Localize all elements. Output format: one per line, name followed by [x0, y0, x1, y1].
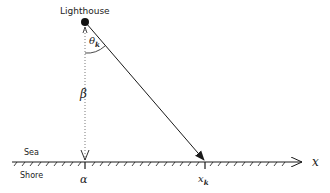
- lighthouse-diagram: Lighthouse θk β Sea Shore α xk x: [0, 0, 330, 193]
- diagram-svg: Lighthouse θk β Sea Shore α xk x: [0, 0, 330, 193]
- lighthouse-dot: [81, 18, 89, 26]
- xk-label: xk: [198, 173, 209, 187]
- shore-hatching: [14, 162, 285, 166]
- x-axis-label: x: [312, 155, 319, 169]
- beta-label: β: [79, 87, 87, 101]
- shore-label: Shore: [20, 171, 43, 180]
- sea-label: Sea: [24, 148, 39, 157]
- lighthouse-label: Lighthouse: [60, 6, 110, 16]
- light-ray: [86, 23, 204, 160]
- alpha-arrowhead: [81, 150, 89, 160]
- alpha-label: α: [80, 173, 88, 186]
